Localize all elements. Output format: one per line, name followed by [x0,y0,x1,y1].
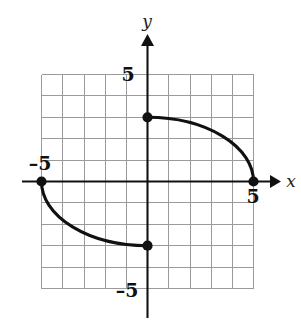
x-axis-name-label: x [286,171,296,191]
x-axis-arrow [270,175,281,188]
y-axis-name-label: y [141,11,152,31]
lower-left-arc [42,182,148,246]
axes [22,34,281,318]
x-axis-tick-label-negative-5: –5 [29,152,52,174]
graph-canvas: 5 –5 –5 5 y x [0,0,301,330]
y-axis-arrow [141,34,154,46]
x-axis-tick-label-positive-5: 5 [246,185,259,207]
coordinate-graph-figure: 5 –5 –5 5 y x [0,0,301,330]
upper-right-arc [148,117,254,181]
point-0-neg3 [142,241,152,251]
y-axis-tick-label-positive-5: 5 [121,63,134,85]
point-neg5-0 [36,176,46,186]
y-axis-tick-label-negative-5: –5 [116,279,139,301]
point-0-3 [142,112,152,122]
